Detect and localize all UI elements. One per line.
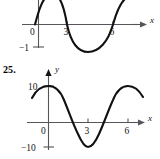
bottom-x-label-6: 6 <box>125 126 130 136</box>
bottom-y-label-10: 10 <box>28 82 38 92</box>
top-y-label-neg1: −1 <box>19 43 29 53</box>
top-sine-curve <box>35 0 126 52</box>
top-x-axis-arrow <box>131 21 147 27</box>
problem-25-graph: 0 3 6 10 −10 x y <box>0 62 160 159</box>
bottom-x-label-3: 3 <box>85 126 90 136</box>
top-graph-svg: 0 3 6 −1 x <box>0 0 160 62</box>
bottom-x-axis-arrow <box>131 119 145 125</box>
top-x-label-6: 6 <box>110 27 115 37</box>
top-x-axis-title: x <box>149 15 154 25</box>
bottom-x-label-0: 0 <box>41 126 46 136</box>
top-x-label-0: 0 <box>30 27 35 37</box>
problem-25-graph-svg: 0 3 6 10 −10 x y <box>0 62 160 159</box>
bottom-y-label-neg10: −10 <box>21 143 36 153</box>
bottom-y-axis-title: y <box>54 64 59 74</box>
bottom-x-axis-title: x <box>147 113 152 123</box>
bottom-y-axis-arrow <box>45 69 51 80</box>
top-x-label-3: 3 <box>64 27 69 37</box>
